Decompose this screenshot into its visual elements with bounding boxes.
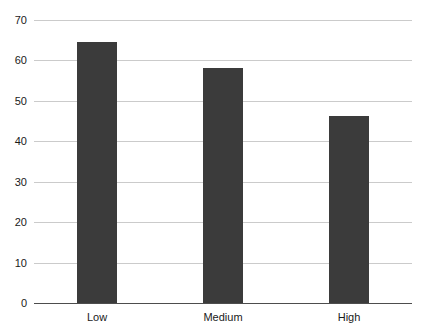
x-axis-tick-label: High: [338, 312, 361, 323]
bar: [203, 68, 243, 303]
gridline: [34, 20, 412, 21]
plot-area: [34, 20, 412, 303]
y-axis-tick-label: 50: [0, 96, 27, 107]
bar: [329, 116, 369, 303]
axis-baseline: [34, 303, 412, 304]
y-axis-tick-label: 30: [0, 177, 27, 188]
bar: [77, 42, 117, 303]
y-axis-tick-label: 70: [0, 15, 27, 26]
x-axis-tick-label: Low: [87, 312, 107, 323]
y-axis-tick-label: 10: [0, 258, 27, 269]
bar-chart: 010203040506070 LowMediumHigh: [0, 0, 426, 327]
y-axis-tick-label: 20: [0, 217, 27, 228]
y-axis-tick-label: 40: [0, 136, 27, 147]
y-axis-tick-label: 60: [0, 55, 27, 66]
x-axis-tick-label: Medium: [203, 312, 242, 323]
y-axis-tick-label: 0: [0, 298, 27, 309]
